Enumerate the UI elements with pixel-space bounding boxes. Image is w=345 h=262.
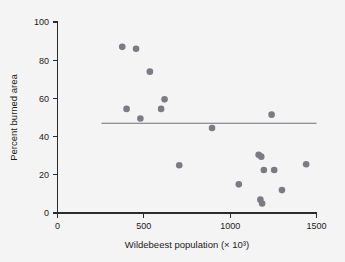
data-point — [303, 161, 310, 168]
x-axis-title: Wildebeest population (× 10³) — [125, 239, 249, 250]
data-point — [259, 200, 266, 207]
data-point — [271, 167, 278, 174]
data-point — [261, 167, 268, 174]
figure-container: 0 20 40 60 80 100 Percent burned area 0 … — [0, 0, 345, 262]
data-point — [147, 68, 154, 75]
data-point — [236, 181, 243, 188]
scatter-plot: 0 20 40 60 80 100 Percent burned area 0 … — [0, 0, 345, 262]
y-tick-label-60: 60 — [39, 94, 49, 104]
data-point — [258, 153, 265, 160]
x-tick-label-0: 0 — [55, 221, 60, 231]
plot-background — [0, 0, 345, 262]
x-tick-label-1000: 1000 — [220, 221, 240, 231]
data-point — [209, 125, 216, 132]
y-tick-label-20: 20 — [39, 170, 49, 180]
data-point — [133, 45, 140, 52]
y-tick-label-40: 40 — [39, 132, 49, 142]
x-tick-label-500: 500 — [136, 221, 151, 231]
y-axis-title: Percent burned area — [8, 73, 19, 160]
y-tick-label-0: 0 — [44, 208, 49, 218]
data-point — [123, 106, 130, 113]
data-point — [119, 44, 126, 51]
data-point — [137, 115, 144, 122]
data-point — [176, 162, 183, 169]
x-tick-label-1500: 1500 — [306, 221, 326, 231]
data-point — [279, 187, 286, 194]
data-point — [161, 96, 168, 103]
data-point — [158, 106, 165, 113]
data-point — [268, 111, 275, 118]
y-tick-label-80: 80 — [39, 56, 49, 66]
y-tick-label-100: 100 — [34, 17, 49, 27]
